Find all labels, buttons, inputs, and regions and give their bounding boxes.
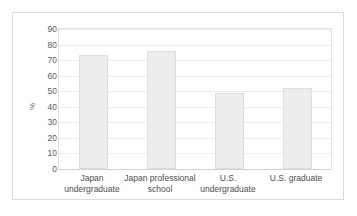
- bar: [283, 88, 312, 169]
- y-axis-tick-label: 90: [35, 25, 57, 34]
- y-axis-tick-labels: 0102030405060708090: [35, 28, 57, 170]
- x-axis-category-labels: Japan undergraduateJapan professional sc…: [58, 173, 332, 199]
- x-axis-baseline: [59, 169, 331, 170]
- y-axis-tick-label: 0: [35, 165, 57, 174]
- bar: [147, 51, 176, 169]
- y-axis-tick-label: 20: [35, 134, 57, 143]
- y-axis-tick-label: 60: [35, 71, 57, 80]
- y-axis-tick-label: 70: [35, 56, 57, 65]
- y-axis-tick-label: 10: [35, 149, 57, 158]
- y-axis-tick-label: 30: [35, 118, 57, 127]
- chart-figure: % 0102030405060708090 Japan undergraduat…: [12, 12, 344, 200]
- bar-series: [59, 29, 331, 169]
- plot-area: [58, 28, 332, 170]
- y-axis-tick-label: 40: [35, 103, 57, 112]
- bar: [215, 93, 244, 169]
- y-axis-tick-label: 80: [35, 40, 57, 49]
- bar: [79, 55, 108, 169]
- y-axis-tick-mark: [56, 169, 59, 170]
- y-axis-tick-label: 50: [35, 87, 57, 96]
- x-axis-category-label: U.S. graduate: [256, 173, 336, 184]
